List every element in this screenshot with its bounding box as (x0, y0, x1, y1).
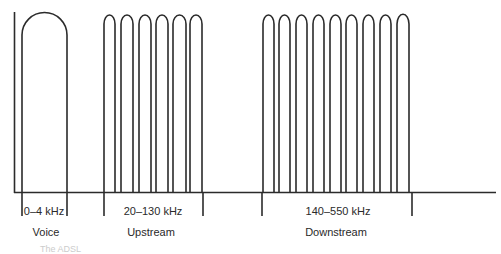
downstream-range-label: 140–550 kHz (306, 205, 371, 217)
voice-range-label: 0–4 kHz (24, 205, 64, 217)
downstream-label: Downstream (305, 226, 367, 238)
downstream-channels (263, 14, 409, 192)
upstream-channels (104, 15, 202, 192)
figure-caption: The ADSL (40, 244, 81, 254)
voice-channel (22, 13, 67, 193)
upstream-label: Upstream (127, 226, 175, 238)
voice-label: Voice (33, 226, 60, 238)
upstream-range-label: 20–130 kHz (124, 205, 183, 217)
